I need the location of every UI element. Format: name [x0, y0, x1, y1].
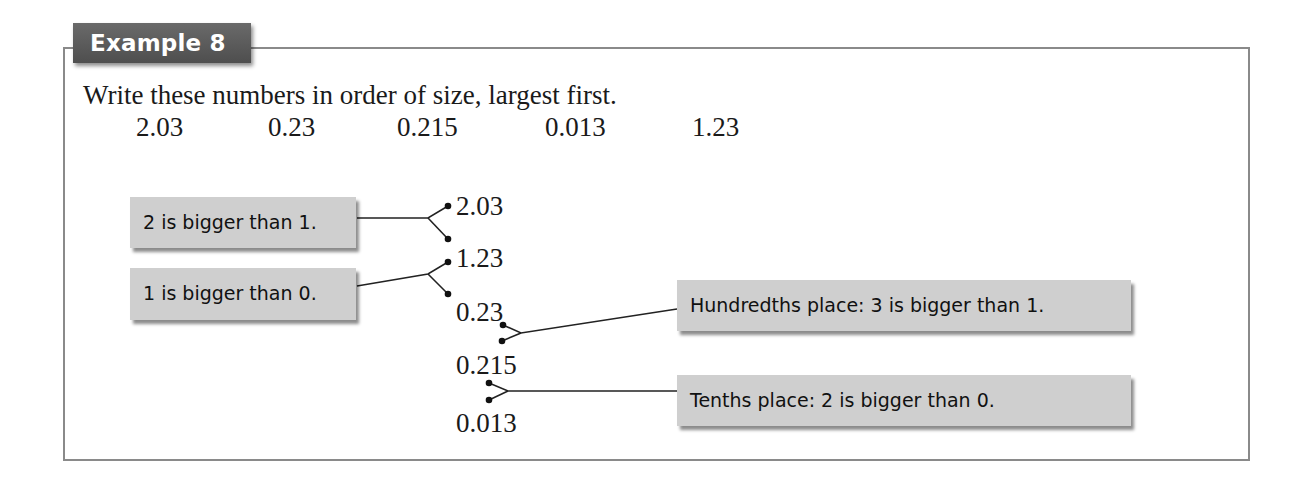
dot-icon: [445, 236, 452, 243]
ordered-number: 1.23: [456, 243, 503, 274]
explanation-box: Hundredths place: 3 is bigger than 1.: [677, 280, 1131, 331]
explanation-box: 2 is bigger than 1.: [130, 197, 356, 248]
ordered-number: 0.215: [456, 350, 517, 381]
ordered-number: 0.013: [456, 408, 517, 439]
explanation-box: Tenths place: 2 is bigger than 0.: [677, 375, 1131, 426]
ordered-number: 0.23: [456, 297, 503, 328]
dot-icon: [445, 203, 452, 210]
dot-icon: [445, 259, 452, 266]
dot-icon: [499, 338, 506, 345]
explanation-box: 1 is bigger than 0.: [130, 268, 356, 320]
dot-icon: [486, 397, 493, 404]
ordered-number: 2.03: [456, 191, 503, 222]
dot-icon: [445, 291, 452, 298]
